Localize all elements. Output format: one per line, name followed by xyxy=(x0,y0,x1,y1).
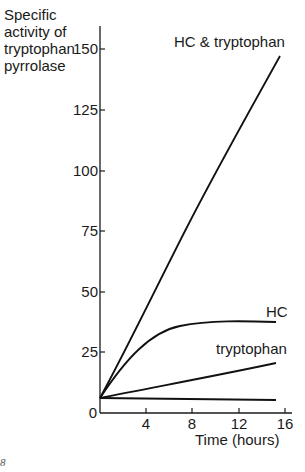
series-label-tryptophan: tryptophan xyxy=(216,340,287,357)
y-ticks xyxy=(100,49,105,352)
y-tick-label: 0 xyxy=(89,404,97,421)
y-tick-label: 50 xyxy=(81,283,98,300)
y-tick-label: 25 xyxy=(81,343,98,360)
y-tick-label: 150 xyxy=(73,40,98,57)
series-tryptophan xyxy=(100,363,276,398)
x-tick-label: 8 xyxy=(188,415,196,432)
series-control xyxy=(100,398,276,400)
x-tick-label: 16 xyxy=(277,415,294,432)
series-label-hc: HC xyxy=(266,303,288,320)
y-tick-label: 100 xyxy=(73,162,98,179)
y-tick-label: 75 xyxy=(81,222,98,239)
x-tick-label: 4 xyxy=(142,415,150,432)
chart-plot: 150 125 100 75 50 25 0 4 8 12 16 HC & tr… xyxy=(0,0,305,472)
figure-number-fragment: 8 xyxy=(0,456,6,468)
series-label-hc-and-tryptophan: HC & tryptophan xyxy=(174,33,285,50)
x-ticks xyxy=(146,408,285,413)
x-tick-label: 12 xyxy=(231,415,248,432)
y-tick-label: 125 xyxy=(73,101,98,118)
series-hc xyxy=(100,321,276,398)
x-axis-label: Time (hours) xyxy=(195,431,279,448)
